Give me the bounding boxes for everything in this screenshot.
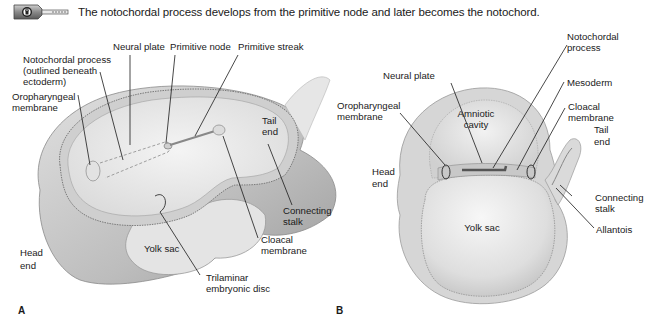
label-a-oropharyngeal-2: membrane xyxy=(12,102,58,113)
label-a-trilaminar-2: embryonic disc xyxy=(206,283,270,294)
label-b-head-1: Head xyxy=(372,166,395,177)
label-a-tail-1: Tail xyxy=(262,115,276,126)
yolk-sac-b xyxy=(421,175,554,296)
label-a-trilaminar-1: Trilaminar xyxy=(206,272,249,283)
label-b-notochordal-2: process xyxy=(567,42,601,53)
label-b-mesoderm: Mesoderm xyxy=(567,77,612,88)
label-a-notochordal-process-3: ectoderm) xyxy=(23,76,66,87)
label-b-notochordal-1: Notochordal xyxy=(567,31,619,42)
label-a-head-2: end xyxy=(20,260,36,271)
figure-canvas: Neural plate Primitive node Primitive st… xyxy=(0,0,647,327)
label-b-head-2: end xyxy=(372,178,388,189)
label-b-oropharyngeal-1: Oropharyngeal xyxy=(337,100,400,111)
label-a-tail-2: end xyxy=(262,126,278,137)
label-a-notochordal-process-1: Notochordal process xyxy=(23,54,111,65)
label-b-oropharyngeal-2: membrane xyxy=(337,111,383,122)
label-a-primitive-node: Primitive node xyxy=(170,41,231,52)
label-a-yolk-sac: Yolk sac xyxy=(144,243,180,254)
label-a-notochordal-process-2: (outlined beneath xyxy=(23,65,97,76)
label-b-cloacal-1: Cloacal xyxy=(568,101,600,112)
label-b-allantois: Allantois xyxy=(596,224,632,235)
label-b-tail-1: Tail xyxy=(594,124,608,135)
cloacal-membrane-a xyxy=(213,125,225,135)
panel-label-a: A xyxy=(18,305,25,316)
label-a-cloacal-2: membrane xyxy=(261,245,307,256)
label-a-primitive-streak: Primitive streak xyxy=(238,41,304,52)
label-a-cloacal-1: Cloacal xyxy=(261,234,293,245)
figure-b-illustration xyxy=(397,45,594,304)
panel-label-b: B xyxy=(336,305,343,316)
label-b-tail-2: end xyxy=(594,136,610,147)
label-b-neural-plate: Neural plate xyxy=(383,70,435,81)
label-b-yolk-sac: Yolk sac xyxy=(464,222,500,233)
label-b-connecting-2: stalk xyxy=(595,203,615,214)
label-b-connecting-1: Connecting xyxy=(595,192,644,203)
label-a-connecting-2: stalk xyxy=(283,216,303,227)
label-a-head-1: Head xyxy=(20,247,43,258)
label-a-neural-plate: Neural plate xyxy=(113,41,165,52)
label-a-oropharyngeal-1: Oropharyngeal xyxy=(12,91,75,102)
label-b-amniotic-1: Amniotic xyxy=(458,108,495,119)
label-b-amniotic-2: cavity xyxy=(464,119,489,130)
label-b-cloacal-2: membrane xyxy=(568,112,614,123)
oropharyngeal-membrane-a xyxy=(86,161,100,181)
label-a-connecting-1: Connecting xyxy=(283,205,332,216)
